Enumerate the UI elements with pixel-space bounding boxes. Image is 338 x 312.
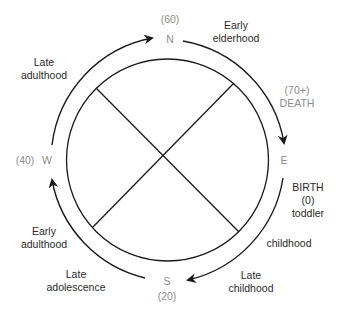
stage-late-childhood-line1: Late — [229, 269, 274, 282]
birth-age: (0) — [292, 194, 324, 207]
stage-late-childhood: Late childhood — [229, 269, 274, 295]
stage-late-adolescence-line2: adolescence — [47, 281, 106, 294]
north-age-label: (60) — [161, 13, 180, 26]
stage-late-adolescence: Late adolescence — [47, 268, 106, 294]
birth-stage: toddler — [292, 207, 324, 220]
stage-early-adulthood-line2: adulthood — [21, 238, 67, 251]
east-death-label: (70+) DEATH — [280, 84, 315, 110]
stage-early-adulthood-line1: Early — [21, 225, 67, 238]
birth-label: BIRTH (0) toddler — [292, 181, 324, 220]
arc-north-to-east — [183, 41, 284, 143]
birth-event: BIRTH — [292, 181, 324, 194]
stage-late-childhood-line2: childhood — [229, 282, 274, 295]
stage-early-elderhood: Early elderhood — [213, 19, 260, 45]
stage-early-elderhood-line1: Early — [213, 19, 260, 32]
stage-late-adulthood: Late adulthood — [21, 56, 67, 82]
stage-late-adulthood-line2: adulthood — [21, 69, 67, 82]
south-compass-label: S — [163, 275, 170, 288]
cross-line-nw-se — [96, 88, 239, 232]
east-event: DEATH — [280, 97, 315, 110]
stage-early-elderhood-line2: elderhood — [213, 32, 260, 45]
stage-late-adulthood-line1: Late — [21, 56, 67, 69]
stage-early-adulthood: Early adulthood — [21, 225, 67, 251]
stage-late-adolescence-line1: Late — [47, 268, 106, 281]
south-age-label: (20) — [158, 290, 177, 303]
west-compass-label: W — [42, 154, 52, 167]
east-compass-label: E — [280, 154, 287, 167]
east-age: (70+) — [280, 84, 315, 97]
west-age-label: (40) — [16, 154, 35, 167]
stage-childhood: childhood — [267, 237, 312, 250]
north-compass-label: N — [166, 33, 174, 46]
